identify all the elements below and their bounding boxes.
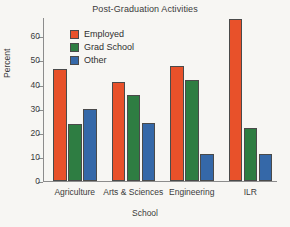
y-axis-tick-label: 30 [31,104,40,115]
bar [170,66,184,181]
x-axis-category-label: ILR [244,187,257,197]
bar [83,109,97,181]
y-axis-tick-label: 10 [31,152,40,163]
legend-swatch-icon [70,56,79,65]
x-axis-category-label: Agriculture [54,187,95,197]
bar [127,95,141,181]
bar [112,82,126,181]
y-axis-tick-label: 20 [31,128,40,139]
bar [142,123,156,181]
legend-swatch-icon [70,30,79,39]
bar [185,80,199,181]
x-axis-category-label: Engineering [169,187,214,197]
x-axis-title: School [0,208,290,218]
legend-swatch-icon [70,43,79,52]
x-axis-category-label: Arts & Sciences [103,187,163,197]
bar [244,128,258,181]
chart-figure: Post-Graduation Activities Percent 01020… [0,0,290,227]
chart-legend: EmployedGrad SchoolOther [70,28,134,67]
legend-item: Grad School [70,41,134,53]
y-axis-tick-label: 40 [31,80,40,91]
y-axis-tick-label: 50 [31,55,40,66]
bar [68,124,82,181]
y-axis-tick-label: 60 [31,31,40,42]
legend-item-label: Other [84,55,107,65]
y-axis-line [43,18,44,182]
legend-item: Other [70,54,134,66]
legend-item: Employed [70,28,134,40]
y-axis-tick-label: 0 [35,176,40,187]
y-axis-title: Percent [2,49,12,78]
legend-item-label: Employed [84,29,124,39]
bar [229,19,243,181]
legend-item-label: Grad School [84,42,134,52]
x-axis-line [43,181,277,182]
bar [259,154,273,181]
bar [200,154,214,181]
chart-title: Post-Graduation Activities [0,4,290,14]
bar [53,69,67,181]
